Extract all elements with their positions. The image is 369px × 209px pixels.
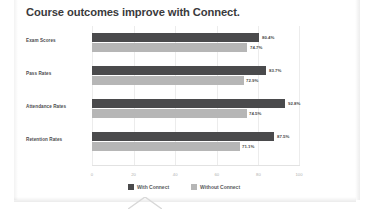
bar-value-with-connect-pass-rates: 83.7% <box>269 66 281 75</box>
page-title: Course outcomes improve with Connect. <box>26 6 240 18</box>
bar-value-without-connect-pass-rates: 72.9% <box>246 76 258 85</box>
bar-without-connect-exam-scores[interactable] <box>92 43 247 52</box>
category-label-pass-rates: Pass Rates <box>26 71 88 76</box>
legend-swatch-icon-with-connect <box>128 184 134 190</box>
plot-area: 80.4% 74.7% 83.7% 72.9% 92.8% 74.5% 87.5… <box>92 26 300 166</box>
category-label-exam-scores: Exam Scores <box>26 38 88 43</box>
bar-value-without-connect-exam-scores: 74.7% <box>250 43 262 52</box>
gridline-100 <box>299 26 300 166</box>
legend-item-with-connect[interactable]: With Connect <box>128 184 169 190</box>
x-tick-label-100: 100 <box>296 172 303 177</box>
bottom-strip <box>0 202 369 209</box>
bar-without-connect-retention-rates[interactable] <box>92 142 240 151</box>
legend-label-with-connect: With Connect <box>137 184 169 190</box>
bar-value-without-connect-attendance-rates: 74.5% <box>249 109 261 118</box>
x-axis-line <box>92 165 300 166</box>
category-label-retention-rates: Retention Rates <box>26 137 88 142</box>
x-tick-label-40: 40 <box>173 172 178 177</box>
bar-without-connect-pass-rates[interactable] <box>92 76 244 85</box>
card-right-edge-shadow <box>355 0 360 200</box>
legend-item-without-connect[interactable]: Without Connect <box>191 184 240 190</box>
slide-canvas: Course outcomes improve with Connect. Ex… <box>0 0 369 209</box>
bar-with-connect-exam-scores[interactable] <box>92 33 259 42</box>
legend-swatch-icon-without-connect <box>191 184 197 190</box>
x-tick-label-20: 20 <box>131 172 136 177</box>
x-tick-label-60: 60 <box>214 172 219 177</box>
bar-with-connect-retention-rates[interactable] <box>92 132 274 141</box>
x-tick-label-80: 80 <box>256 172 261 177</box>
bar-value-with-connect-retention-rates: 87.5% <box>277 132 289 141</box>
x-tick-label-0: 0 <box>91 172 93 177</box>
bar-with-connect-pass-rates[interactable] <box>92 66 266 75</box>
category-label-attendance-rates: Attendance Rates <box>26 104 88 109</box>
bar-value-with-connect-exam-scores: 80.4% <box>262 33 274 42</box>
bar-chart: Exam Scores Pass Rates Attendance Rates … <box>26 26 342 174</box>
bar-without-connect-attendance-rates[interactable] <box>92 109 247 118</box>
bar-with-connect-attendance-rates[interactable] <box>92 99 285 108</box>
legend-label-without-connect: Without Connect <box>200 184 240 190</box>
chart-legend: With Connect Without Connect <box>26 184 342 190</box>
bar-value-with-connect-attendance-rates: 92.8% <box>288 99 300 108</box>
caret-pointer-icon <box>128 197 162 209</box>
bar-value-without-connect-retention-rates: 71.1% <box>242 142 254 151</box>
card-left-edge-shadow <box>14 0 18 200</box>
